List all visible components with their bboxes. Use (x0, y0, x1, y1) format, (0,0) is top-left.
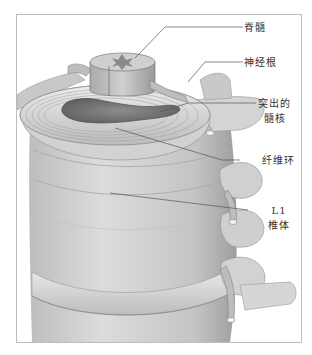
label-annulus-fibrosus: 纤维环 (262, 153, 295, 168)
right-facet-mid (220, 210, 264, 247)
label-herniated-nucleus: 突出的 髓核 (258, 96, 291, 126)
leader-spinal-cord (135, 27, 243, 58)
right-upper-process (200, 73, 232, 100)
label-l1-vertebra: L1 椎体 (268, 203, 290, 233)
spine-illustration (0, 0, 312, 355)
label-herniated-nucleus-line1: 突出的 (258, 96, 291, 111)
right-transverse-process (240, 282, 296, 310)
label-l1-line1: L1 (268, 203, 290, 218)
label-nerve-root: 神经根 (244, 55, 277, 70)
label-spinal-cord: 脊髓 (244, 20, 266, 35)
label-herniated-nucleus-line2: 髓核 (258, 111, 291, 126)
label-l1-line2: 椎体 (268, 218, 290, 233)
